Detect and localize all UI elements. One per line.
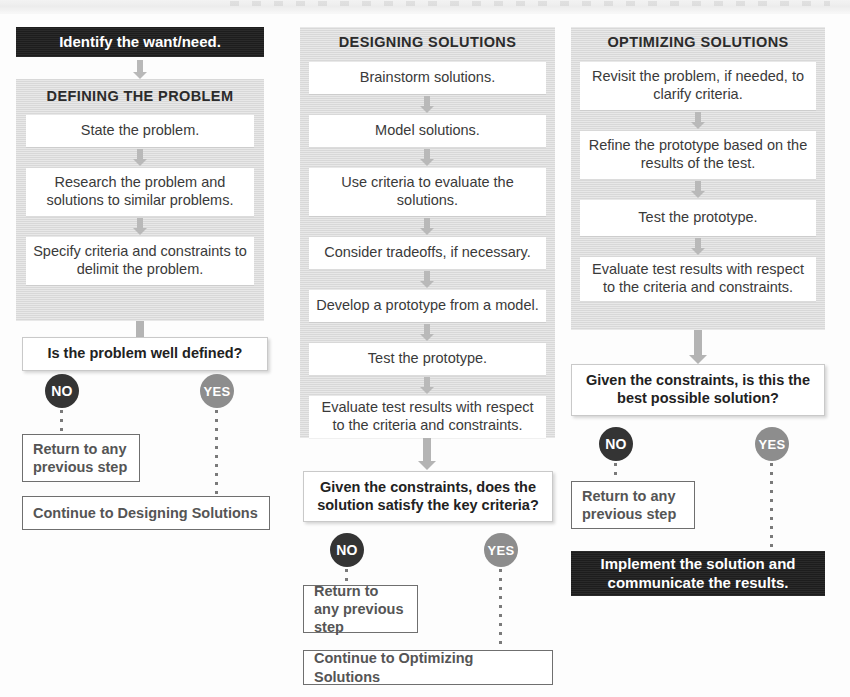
step-box: Consider tradeoffs, if necessary. [309,237,546,269]
dotted-connector-no [614,463,617,481]
outcome-banner-implement-the-solution: Implement the solution and communicate t… [571,551,825,596]
panel-title-optimizing-solutions: OPTIMIZING SOLUTIONS [571,34,825,50]
outcome-box-yes-continue-to-optimizing-solutions: Continue to Optimizing Solutions [303,650,553,685]
arrow-down-step [420,271,434,288]
dotted-connector-yes [499,569,502,648]
outcome-box-yes-continue-to-designing-solutions: Continue to Designing Solutions [22,496,270,530]
badge-yes: YES [755,427,789,461]
panel-title-designing-solutions: DESIGNING SOLUTIONS [300,34,555,50]
arrow-down-step [420,149,434,166]
step-box: Evaluate test results with respect to th… [309,396,546,438]
panel-title-defining-the-problem: DEFINING THE PROBLEM [16,88,264,104]
step-box: Evaluate test results with respect to th… [580,257,816,301]
step-box: Model solutions. [309,115,546,147]
step-box: Revisit the problem, if needed, to clari… [580,62,816,110]
step-box: Develop a prototype from a model. [309,290,546,322]
arrow-down-step [133,149,147,166]
decision-box-is-problem-well-defined: Is the problem well defined? [22,337,268,371]
badge-no: NO [45,374,79,408]
dotted-connector-yes [215,410,218,496]
step-box: Use criteria to evaluate the solutions. [309,168,546,216]
step-box: State the problem. [26,115,254,147]
outcome-box-no-return-to-any-previous-step: Return to any previous step [22,434,140,482]
badge-yes: YES [484,533,518,567]
badge-yes: YES [200,374,234,408]
arrow-down-step [420,324,434,341]
dotted-connector-no [60,410,63,434]
scan-artifact-strip [0,0,850,14]
intro-banner-identify-want-need: Identify the want/need. [16,27,264,57]
step-box: Brainstorm solutions. [309,62,546,94]
outcome-box-no-return-to-any-previous-step: Return to any previous step [303,585,418,633]
step-box: Test the prototype. [309,343,546,375]
step-box: Research the problem and solutions to si… [26,168,254,216]
step-box: Refine the prototype based on the result… [580,131,816,179]
decision-box-is-this-best-possible-solution: Given the constraints, is this the best … [571,364,825,416]
arrow-down-intro-to-panel-1 [133,60,147,79]
badge-no: NO [330,533,364,567]
arrow-down-panel-to-decision-2 [418,438,436,470]
arrow-down-step [420,96,434,113]
arrow-down-panel-to-decision-3 [689,330,707,364]
arrow-down-step [691,181,705,198]
dotted-connector-yes [770,463,773,551]
decision-box-does-solution-satisfy-key-criteria: Given the constraints, does the solution… [303,471,553,522]
arrow-down-step [691,238,705,255]
arrow-down-step [133,218,147,235]
step-box: Specify criteria and constraints to deli… [26,237,254,285]
arrow-down-step [420,377,434,394]
badge-no: NO [599,427,633,461]
flowchart-canvas: Identify the want/need. DEFINING THE PRO… [0,0,850,697]
step-box: Test the prototype. [580,200,816,236]
arrow-down-step [420,218,434,235]
arrow-down-step [691,112,705,129]
outcome-box-no-return-to-any-previous-step: Return to any previous step [571,481,695,529]
